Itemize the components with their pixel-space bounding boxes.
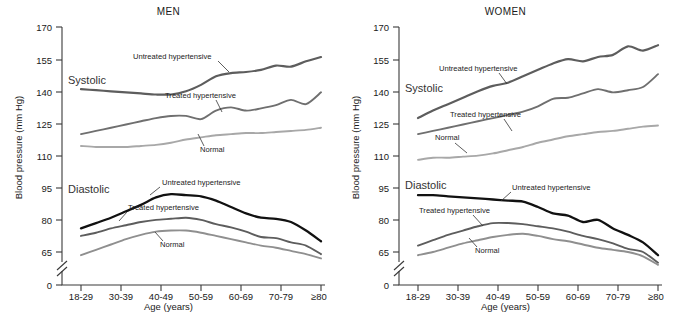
group-label-systolic-men: Systolic — [68, 74, 106, 86]
plot-men: 170 155 140 125 110 95 80 65 0 18-29 — [0, 0, 337, 319]
x-tick-30-39: 30-39 — [446, 291, 470, 302]
annotation-women-diastolic-normal: Normal — [475, 246, 500, 255]
series-men-diastolic-normal — [81, 230, 321, 258]
series-men-systolic-untreated — [81, 57, 321, 95]
y-ticks-women: 170 155 140 125 110 95 80 65 0 — [373, 22, 399, 291]
x-tick-80plus: ≥80 — [648, 291, 664, 302]
annotation-men-diastolic-treated: Treated hypertensive — [128, 203, 199, 212]
annotation-men-systolic-treated: Treated hypertensive — [165, 91, 236, 100]
y-tick-95: 95 — [378, 183, 389, 194]
y-tick-0: 0 — [384, 280, 389, 291]
series-men-diastolic-untreated — [81, 194, 321, 241]
x-tick-60-69: 60-69 — [566, 291, 590, 302]
y-tick-125: 125 — [36, 119, 52, 130]
panel-women: WOMEN Blood pressure (mm Hg) Age (years)… — [337, 0, 674, 319]
annotation-women-systolic-untreated: Untreated hypertensive — [439, 64, 518, 73]
y-tick-95: 95 — [41, 183, 52, 194]
y-tick-110: 110 — [374, 151, 389, 162]
y-tick-155: 155 — [373, 55, 389, 66]
y-tick-65: 65 — [41, 247, 52, 258]
y-ticks-men: 170 155 140 125 110 95 80 65 0 — [36, 22, 62, 291]
plot-women: 170 155 140 125 110 95 80 65 0 18-29 30-… — [337, 0, 674, 319]
annotation-men-systolic-normal: Normal — [200, 145, 225, 154]
x-tick-50-59: 50-59 — [189, 291, 213, 302]
y-tick-80: 80 — [41, 215, 52, 226]
annotation-women-systolic-treated: Treated hypertensive — [450, 110, 521, 119]
y-tick-140: 140 — [373, 87, 389, 98]
annotation-men-diastolic-normal: Normal — [160, 240, 185, 249]
y-tick-155: 155 — [36, 55, 52, 66]
y-tick-170: 170 — [373, 22, 389, 33]
series-women-systolic-treated — [418, 74, 658, 134]
series-women-diastolic-treated — [418, 223, 658, 263]
series-women-systolic-normal — [418, 126, 658, 160]
x-tick-60-69: 60-69 — [229, 291, 253, 302]
x-tick-18-29: 18-29 — [406, 291, 430, 302]
y-tick-80: 80 — [378, 215, 389, 226]
annotation-men-diastolic-untreated: Untreated hypertensive — [162, 178, 241, 187]
x-ticks-women: 18-29 30-39 40-49 50-59 60-69 70-79 ≥80 — [406, 285, 664, 302]
panel-men: MEN Blood pressure (mm Hg) Age (years) 1 — [0, 0, 337, 319]
annotation-women-systolic-normal: Normal — [435, 133, 460, 142]
x-tick-30-39: 30-39 — [109, 291, 133, 302]
y-tick-140: 140 — [36, 87, 52, 98]
y-tick-125: 125 — [373, 119, 389, 130]
series-women-diastolic-normal — [418, 234, 658, 265]
y-tick-0: 0 — [47, 280, 52, 291]
annotation-women-diastolic-untreated: Untreated hypertensive — [512, 183, 591, 192]
y-tick-65: 65 — [378, 247, 389, 258]
annotation-women-diastolic-treated: Treated hypertensive — [419, 206, 490, 215]
x-tick-40-49: 40-49 — [486, 291, 510, 302]
x-tick-80plus: ≥80 — [311, 291, 327, 302]
y-tick-110: 110 — [37, 151, 52, 162]
group-label-systolic-women: Systolic — [405, 82, 443, 94]
group-label-diastolic-women: Diastolic — [405, 179, 447, 191]
blood-pressure-figure: MEN Blood pressure (mm Hg) Age (years) 1 — [0, 0, 674, 319]
annotation-men-systolic-untreated: Untreated hypertensive — [133, 52, 212, 61]
x-tick-18-29: 18-29 — [69, 291, 93, 302]
x-tick-70-79: 70-79 — [269, 291, 293, 302]
group-label-diastolic-men: Diastolic — [68, 183, 110, 195]
x-ticks-men: 18-29 30-39 40-49 50-59 60-69 70-79 ≥80 — [69, 285, 327, 302]
x-tick-40-49: 40-49 — [149, 291, 173, 302]
y-tick-170: 170 — [36, 22, 52, 33]
x-tick-50-59: 50-59 — [526, 291, 550, 302]
x-tick-70-79: 70-79 — [606, 291, 630, 302]
